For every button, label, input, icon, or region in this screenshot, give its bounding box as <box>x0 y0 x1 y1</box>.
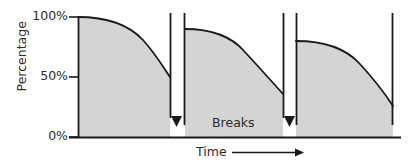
x-axis-title: Time <box>196 146 227 159</box>
y-axis-tick-group <box>69 17 79 137</box>
work-period-3-area <box>296 41 393 137</box>
time-arrow-head <box>295 149 304 157</box>
y-axis-title: Percentage <box>16 1 29 111</box>
y-tick-label-100: 100% <box>32 10 68 23</box>
break-arrow-down-icon-2 <box>284 116 295 127</box>
performance-over-time-chart: 100% 50% 0% Percentage Time Breaks <box>0 0 409 165</box>
y-tick-label-50: 50% <box>40 70 68 83</box>
y-tick-label-0: 0% <box>48 130 68 143</box>
time-arrow-right-icon <box>232 149 304 157</box>
breaks-annotation-label: Breaks <box>212 117 255 130</box>
work-period-1-area <box>78 17 170 137</box>
break-arrow-down-icon-1 <box>171 116 182 127</box>
